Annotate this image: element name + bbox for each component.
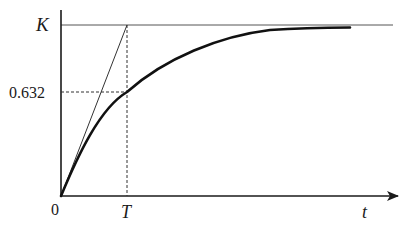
t-marker-label: T bbox=[121, 202, 133, 222]
step-response-diagram: K 0.632 0 T t bbox=[0, 0, 401, 226]
x-axis-label: t bbox=[362, 202, 368, 222]
response-curve-drawn bbox=[61, 28, 350, 197]
k-label: K bbox=[35, 14, 50, 35]
level-632-label: 0.632 bbox=[9, 84, 45, 101]
response-curve bbox=[61, 13, 231, 196]
origin-label: 0 bbox=[51, 201, 59, 218]
